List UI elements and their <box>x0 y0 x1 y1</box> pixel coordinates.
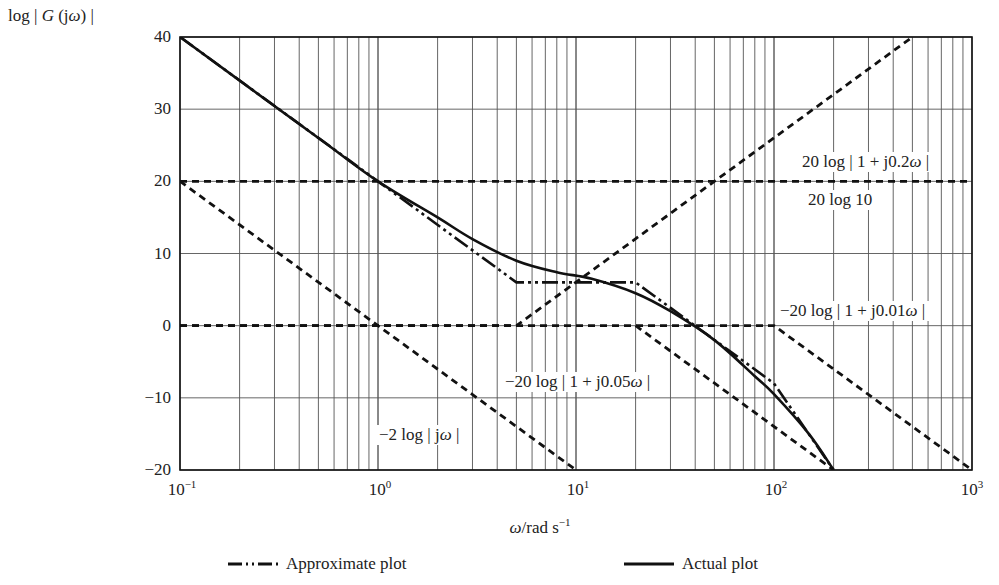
y-axis-label-omega: ω <box>69 6 81 25</box>
x-axis-label-omega: ω <box>509 518 521 537</box>
annotation-minus2log-jw: −2 log | jω | <box>375 425 463 445</box>
annotation-20log10: 20 log 10 <box>804 190 876 210</box>
y-axis-label-mid: (j <box>54 6 69 25</box>
x-tick-100: 102 <box>765 478 788 500</box>
y-axis-label-g: G <box>42 6 54 25</box>
x-tick-1: 100 <box>369 478 392 500</box>
y-tick-minus20: −20 <box>131 461 171 479</box>
x-axis-label-exp: −1 <box>559 516 571 528</box>
x-tick-1000: 103 <box>961 478 984 500</box>
y-tick-0: 0 <box>131 317 171 335</box>
legend-approximate-plot: Approximate plot <box>226 554 406 574</box>
solid-line-icon <box>622 559 678 569</box>
legend-approximate-label: Approximate plot <box>286 554 406 574</box>
x-axis-label-unit: /rad s <box>522 518 559 537</box>
y-tick-minus10: −10 <box>131 389 171 407</box>
y-tick-40: 40 <box>131 28 171 46</box>
y-tick-10: 10 <box>131 245 171 263</box>
x-tick-0.1: 10−1 <box>168 478 197 500</box>
annotation-minus20log-1-j0.01w: −20 log | 1 + j0.01ω | <box>776 301 929 321</box>
x-tick-10: 101 <box>567 478 590 500</box>
x-axis-label: ω/rad s−1 <box>509 516 570 538</box>
y-tick-30: 30 <box>131 100 171 118</box>
annotation-20log-1-j0.2w: 20 log | 1 + j0.2ω | <box>798 152 933 172</box>
y-axis-label-prefix: log | <box>8 6 42 25</box>
bode-magnitude-chart <box>0 0 999 585</box>
legend-actual-plot: Actual plot <box>622 554 758 574</box>
y-axis-label: log | G (jω) | <box>8 6 94 26</box>
annotation-minus20log-1-j0.05w: −20 log | 1 + j0.05ω | <box>501 372 654 392</box>
dash-dot-dot-line-icon <box>226 559 282 569</box>
y-tick-20: 20 <box>131 172 171 190</box>
grid-lines <box>180 37 972 470</box>
y-axis-label-suffix: ) | <box>81 6 94 25</box>
legend-actual-label: Actual plot <box>682 554 758 574</box>
